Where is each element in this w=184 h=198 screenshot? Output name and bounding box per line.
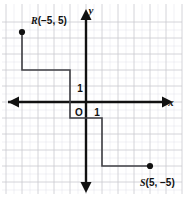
- coordinate-plane-figure: x y O 1 1 R(−5, 5) S(5, −5): [0, 0, 184, 198]
- y-axis-label: y: [87, 4, 94, 16]
- point-marker-s: [147, 163, 153, 169]
- point-label-r: R(−5, 5): [30, 15, 67, 26]
- point-label-s: S(5, −5): [140, 177, 175, 188]
- coordinate-plane-svg: x y O 1 1 R(−5, 5) S(5, −5): [0, 0, 184, 198]
- figure-background: [0, 0, 184, 198]
- x-axis-unit-tick-label: 1: [94, 107, 100, 118]
- point-label-r-coords: (−5, 5): [38, 15, 67, 26]
- point-marker-r: [19, 29, 25, 35]
- y-axis-unit-tick-label: 1: [77, 83, 83, 94]
- point-label-s-coords: (5, −5): [146, 177, 175, 188]
- origin-label: O: [75, 107, 83, 118]
- x-axis-label: x: [167, 96, 174, 108]
